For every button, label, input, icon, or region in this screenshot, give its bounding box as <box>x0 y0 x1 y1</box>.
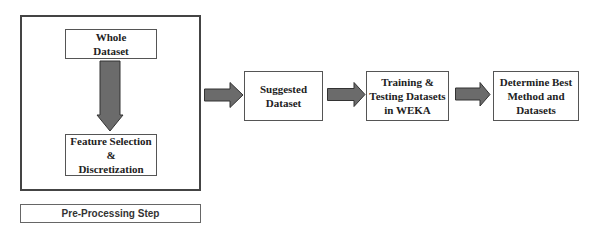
training-testing-box: Training & Testing Datasets in WEKA <box>366 71 449 121</box>
whole-dataset-box: Whole Dataset <box>65 29 157 59</box>
down-arrow-icon <box>96 60 124 132</box>
suggested-dataset-box: Suggested Dataset <box>244 71 323 121</box>
training-testing-line-2: Testing Datasets <box>369 89 445 103</box>
training-testing-line-1: Training & <box>381 75 434 89</box>
feature-selection-line-2: & <box>106 148 115 162</box>
whole-dataset-line-1: Whole <box>96 30 127 44</box>
determine-best-box: Determine Best Method and Datasets <box>493 71 579 121</box>
determine-best-line-2: Method and <box>507 89 564 103</box>
determine-best-line-1: Determine Best <box>500 75 572 89</box>
right-arrow-icon <box>455 82 491 107</box>
suggested-dataset-line-1: Suggested <box>260 82 307 96</box>
right-arrow-icon <box>327 82 366 108</box>
suggested-dataset-line-2: Dataset <box>266 96 301 110</box>
feature-selection-line-1: Feature Selection <box>70 134 151 148</box>
whole-dataset-line-2: Dataset <box>93 44 128 58</box>
determine-best-line-3: Datasets <box>516 103 556 117</box>
training-testing-line-3: in WEKA <box>384 103 431 117</box>
feature-selection-box: Feature Selection & Discretization <box>65 134 157 176</box>
feature-selection-line-3: Discretization <box>78 162 143 176</box>
right-arrow-icon <box>204 82 244 108</box>
preprocessing-step-label: Pre-Processing Step <box>20 204 201 223</box>
